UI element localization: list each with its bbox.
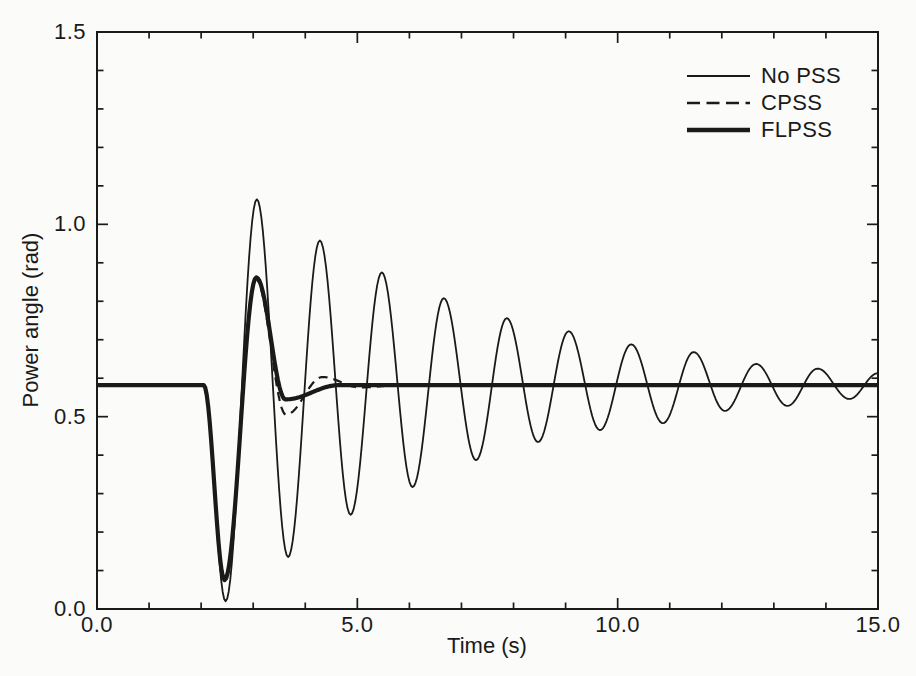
legend-line-thin-solid-icon bbox=[687, 71, 750, 81]
legend-item-cpss: CPSS bbox=[687, 89, 841, 116]
legend-label-flpss: FLPSS bbox=[761, 117, 832, 143]
y-axis-title: Power angle (rad) bbox=[18, 233, 44, 408]
legend: No PSS CPSS FLPSS bbox=[687, 62, 841, 143]
legend-label-no-pss: No PSS bbox=[761, 63, 841, 89]
x-tick-label: 10.0 bbox=[595, 612, 640, 638]
y-tick-label: 0.0 bbox=[28, 596, 86, 622]
legend-item-flpss: FLPSS bbox=[687, 116, 841, 143]
y-tick-label: 0.5 bbox=[28, 404, 86, 430]
legend-line-thick-solid-icon bbox=[687, 125, 750, 135]
legend-item-no-pss: No PSS bbox=[687, 62, 841, 89]
series-cpss bbox=[97, 279, 878, 578]
x-tick-label: 15.0 bbox=[856, 612, 901, 638]
x-axis-title: Time (s) bbox=[447, 633, 527, 659]
legend-line-dashed-icon bbox=[687, 98, 750, 108]
series-flpss bbox=[97, 277, 878, 580]
y-tick-label: 1.0 bbox=[28, 211, 86, 237]
series-no-pss bbox=[97, 199, 878, 601]
figure: Power angle (rad) Time (s) No PSS CPSS F… bbox=[0, 0, 916, 676]
y-tick-label: 1.5 bbox=[28, 19, 86, 45]
x-tick-label: 5.0 bbox=[341, 612, 373, 638]
legend-label-cpss: CPSS bbox=[761, 90, 822, 116]
